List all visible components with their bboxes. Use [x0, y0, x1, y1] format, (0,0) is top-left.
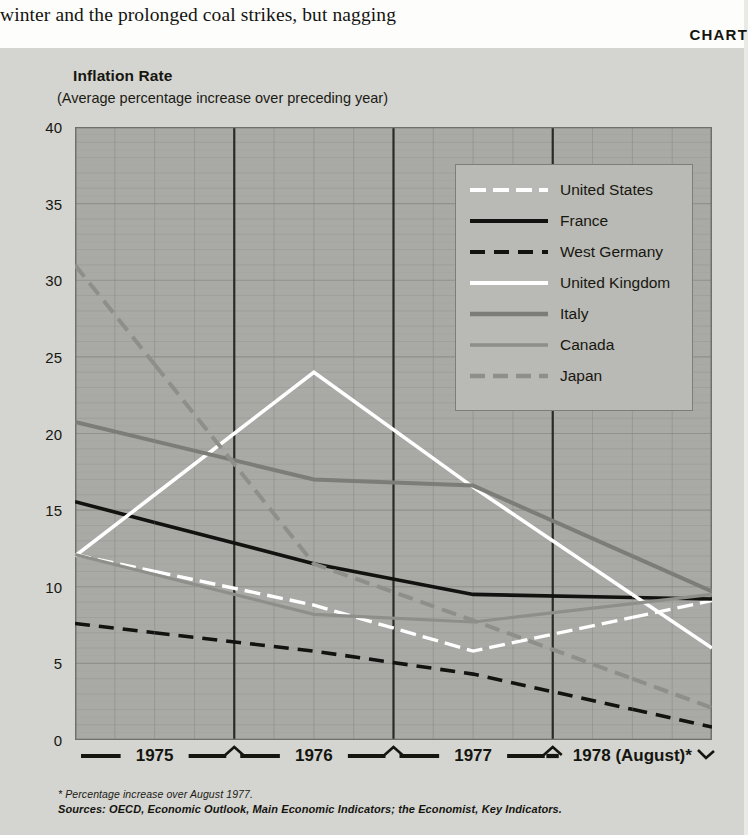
x-axis-year-3: 1978 (August)* — [573, 746, 692, 766]
legend-item-italy[interactable]: Italy — [470, 303, 588, 325]
legend-swatch-icon — [470, 214, 548, 228]
legend-label: United Kingdom — [560, 274, 670, 292]
x-axis-notch — [385, 747, 403, 755]
legend-swatch-icon — [470, 245, 548, 259]
legend-swatch-icon — [470, 276, 548, 290]
series-edge-segment — [632, 709, 712, 727]
x-axis-year-0: 1975 — [136, 746, 174, 766]
series-edge-segment — [75, 624, 155, 633]
y-axis: 0510152025303540 — [0, 112, 70, 737]
y-axis-tick-30: 30 — [2, 272, 62, 289]
x-axis-year-1: 1976 — [295, 746, 333, 766]
chart-legend: United StatesFranceWest GermanyUnited Ki… — [455, 164, 693, 411]
legend-swatch-icon — [470, 183, 548, 197]
legend-label: United States — [560, 181, 653, 199]
footnotes: * Percentage increase over August 1977. … — [58, 788, 718, 815]
legend-item-france[interactable]: France — [470, 210, 608, 232]
footnote-note: * Percentage increase over August 1977. — [58, 788, 718, 800]
chart-title: Inflation Rate — [73, 67, 173, 85]
legend-swatch-icon — [470, 369, 548, 383]
series-edge-segment — [632, 679, 712, 708]
y-axis-tick-35: 35 — [2, 195, 62, 212]
legend-label: France — [560, 212, 608, 230]
series-edge-segment — [75, 555, 155, 575]
series-edge-segment — [75, 422, 155, 441]
series-line-canada — [155, 574, 633, 622]
legend-item-canada[interactable]: Canada — [470, 334, 614, 356]
legend-label: West Germany — [560, 243, 663, 261]
series-line-west-germany — [155, 633, 633, 710]
y-axis-tick-15: 15 — [2, 502, 62, 519]
x-axis-tail-notch — [698, 750, 714, 758]
series-edge-segment — [632, 556, 712, 591]
y-axis-tick-25: 25 — [2, 348, 62, 365]
y-axis-tick-5: 5 — [2, 655, 62, 672]
y-axis-tick-20: 20 — [2, 425, 62, 442]
y-axis-tick-10: 10 — [2, 578, 62, 595]
legend-swatch-icon — [470, 307, 548, 321]
legend-label: Italy — [560, 305, 588, 323]
legend-label: Canada — [560, 336, 614, 354]
footnote-sources: Sources: OECD, Economic Outlook, Main Ec… — [58, 803, 718, 815]
y-axis-tick-40: 40 — [2, 119, 62, 136]
legend-swatch-icon — [470, 338, 548, 352]
legend-item-united-kingdom[interactable]: United Kingdom — [470, 272, 670, 294]
legend-label: Japan — [560, 367, 602, 385]
x-axis-year-2: 1977 — [454, 746, 492, 766]
chart-kicker-label: CHART — [690, 26, 748, 43]
x-axis-notch — [544, 747, 562, 755]
chart-subtitle: (Average percentage increase over preced… — [57, 90, 388, 106]
legend-item-japan[interactable]: Japan — [470, 365, 602, 387]
series-line-italy — [155, 441, 633, 556]
x-axis-notch — [225, 747, 243, 755]
article-body-text: winter and the prolonged coal strikes, b… — [0, 4, 520, 26]
legend-item-united-states[interactable]: United States — [470, 179, 653, 201]
series-edge-segment — [75, 265, 155, 365]
x-axis: 1975197619771978 (August)* — [0, 742, 744, 784]
legend-item-west-germany[interactable]: West Germany — [470, 241, 663, 263]
